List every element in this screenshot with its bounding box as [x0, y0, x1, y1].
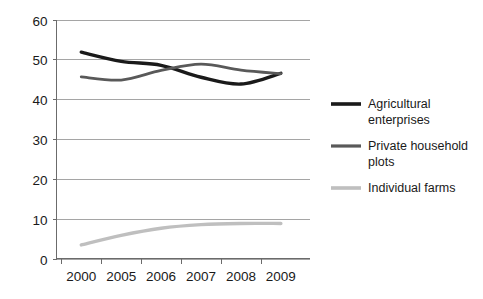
y-tick-label-60: 60: [32, 14, 47, 29]
legend-label-1: enterprises: [368, 113, 430, 127]
y-tick-label-30: 30: [32, 133, 47, 148]
y-tick-label-50: 50: [32, 53, 47, 68]
line-chart: 0102030405060 200020052006200720082009 A…: [0, 0, 483, 299]
y-tick-label-0: 0: [40, 253, 48, 268]
legend-label-1: Agricultural: [368, 97, 431, 111]
chart-canvas: 0102030405060 200020052006200720082009 A…: [0, 0, 483, 299]
y-tick-label-20: 20: [32, 173, 47, 188]
y-tick-label-40: 40: [32, 93, 47, 108]
x-tick-label-2006: 2006: [146, 269, 176, 284]
legend-label-2: Private household: [368, 139, 468, 153]
x-tick-label-2005: 2005: [106, 269, 136, 284]
x-tick-label-2000: 2000: [66, 269, 96, 284]
y-tick-label-10: 10: [32, 213, 47, 228]
x-tick-label-2007: 2007: [186, 269, 216, 284]
legend-label-3: Individual farms: [368, 181, 456, 195]
x-tick-label-2009: 2009: [266, 269, 296, 284]
x-tick-label-2008: 2008: [226, 269, 256, 284]
legend-label-2: plots: [368, 155, 394, 169]
